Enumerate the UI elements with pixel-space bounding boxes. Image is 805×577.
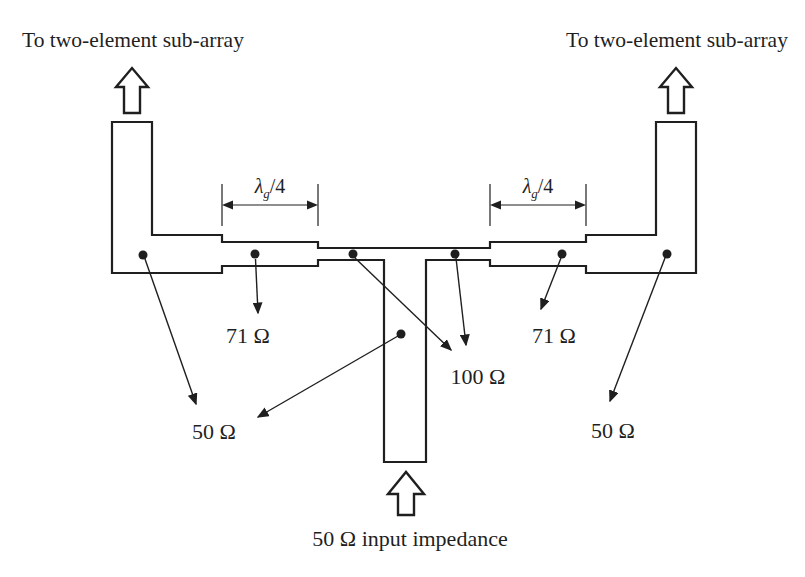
left-quarter-wave-label: λg/4 <box>254 175 286 201</box>
dimension-arrowhead-icon <box>490 201 501 210</box>
dimension-arrowhead-icon <box>222 201 233 210</box>
junction-dot-100-left <box>349 250 358 259</box>
quarter-fraction: /4 <box>538 175 554 197</box>
microstrip-feed-outline <box>112 122 696 462</box>
right-quarter-wave-dimension: λg/4 <box>490 175 586 226</box>
junction-dot-50-left <box>139 251 148 260</box>
dimension-arrowhead-icon <box>575 201 586 210</box>
lambda-glyph: λ <box>522 175 532 197</box>
left-output-up-arrow-icon <box>116 68 148 113</box>
right-quarter-wave-label: λg/4 <box>522 175 554 201</box>
label-100-ohm: 100 Ω <box>451 364 506 389</box>
quarter-fraction: /4 <box>270 175 286 197</box>
right-output-up-arrow-icon <box>660 68 692 113</box>
leader-arrow-50-right-branch <box>610 258 665 401</box>
left-subarray-label: To two-element sub-array <box>22 28 244 52</box>
label-71-ohm-left: 71 Ω <box>226 323 270 348</box>
junction-dot-71-left <box>251 250 260 259</box>
junction-dot-100-right <box>451 250 460 259</box>
leader-arrow-50-left-branch <box>145 259 196 404</box>
junction-dot-71-right <box>558 250 567 259</box>
lambda-glyph: λ <box>254 175 264 197</box>
input-up-arrow-icon <box>388 472 424 515</box>
input-impedance-label: 50 Ω input impedance <box>312 526 507 551</box>
leader-arrow-50-input-trunk <box>258 336 398 417</box>
feed-network-diagram: λg/4 λg/4 To two-element sub-array To tw… <box>0 0 805 577</box>
junction-dot-input-trunk <box>397 330 406 339</box>
dimension-arrowhead-icon <box>307 201 318 210</box>
label-50-ohm-right: 50 Ω <box>591 418 635 443</box>
left-quarter-wave-dimension: λg/4 <box>222 175 318 226</box>
feed-network-figure: λg/4 λg/4 To two-element sub-array To tw… <box>0 0 805 577</box>
leader-arrow-100-right-segment <box>456 258 466 345</box>
label-71-ohm-right: 71 Ω <box>532 323 576 348</box>
right-subarray-label: To two-element sub-array <box>566 28 788 52</box>
label-50-ohm-left: 50 Ω <box>192 419 236 444</box>
junction-dot-50-right <box>663 250 672 259</box>
